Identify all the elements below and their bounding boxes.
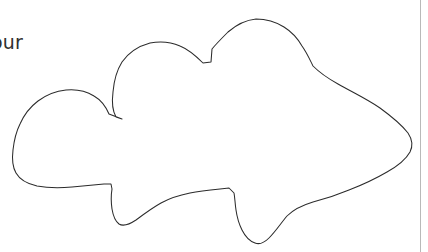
contour-figure [0, 0, 428, 252]
drawing-canvas: our [0, 0, 428, 252]
clipped-text-label: our [0, 32, 23, 52]
